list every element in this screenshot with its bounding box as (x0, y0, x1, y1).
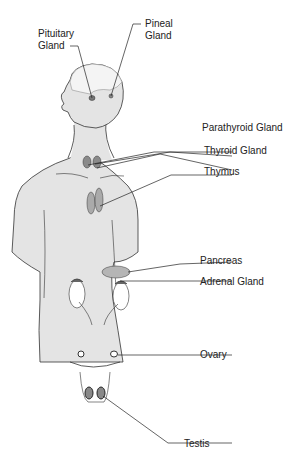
label-pituitary-gland: Pituitary Gland (38, 28, 74, 52)
body-silhouette (12, 148, 138, 362)
body-illustration (0, 0, 293, 460)
label-parathyroid-gland: Parathyroid Gland (202, 122, 283, 134)
label-adrenal-gland: Adrenal Gland (200, 276, 264, 288)
label-thymus: Thymus (204, 166, 240, 178)
label-pineal-gland: Pineal Gland (145, 18, 173, 42)
label-ovary: Ovary (200, 349, 227, 361)
label-thyroid-gland: Thyroid Gland (204, 145, 267, 157)
pancreas (102, 266, 130, 278)
label-testis: Testis (184, 438, 210, 450)
label-pancreas: Pancreas (200, 255, 242, 267)
